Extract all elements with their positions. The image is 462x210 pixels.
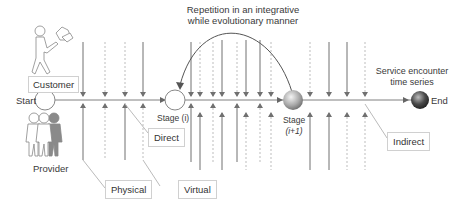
provider-figures-icon	[26, 113, 62, 156]
legend-direct: Direct	[148, 128, 185, 147]
repetition-annotation-line2: while evolutionary manner	[168, 15, 318, 26]
stage-i1-label-line1: Stage	[279, 115, 309, 126]
arrowheads	[80, 92, 368, 117]
stage-i1-node	[283, 90, 303, 110]
stage-i-label: Stage (i)	[157, 113, 189, 124]
end-node	[411, 91, 429, 109]
stage-i-node	[165, 90, 185, 110]
legend-virtual: Virtual	[178, 180, 217, 199]
leader-lines	[83, 104, 387, 188]
repetition-annotation-line1: Repetition in an integrative	[168, 4, 318, 15]
end-label: End	[431, 95, 448, 106]
legend-indirect: Indirect	[387, 132, 430, 151]
stage-i1-label: Stage (i+1)	[279, 115, 309, 137]
series-label: Service encounter time series	[364, 66, 460, 88]
customer-figure-icon	[32, 26, 73, 74]
repetition-arc	[180, 33, 292, 92]
legend-physical: Physical	[105, 180, 152, 199]
start-label: Start	[16, 95, 36, 106]
provider-label: Provider	[33, 163, 68, 174]
series-label-line1: Service encounter	[364, 66, 460, 77]
start-node	[35, 90, 55, 110]
repetition-annotation: Repetition in an integrative while evolu…	[168, 4, 318, 26]
series-label-line2: time series	[364, 77, 460, 88]
service-encounter-diagram	[0, 0, 462, 210]
stage-i1-label-line2: (i+1)	[279, 126, 309, 137]
customer-label: Customer	[28, 76, 79, 93]
timeline-axis	[55, 97, 412, 103]
